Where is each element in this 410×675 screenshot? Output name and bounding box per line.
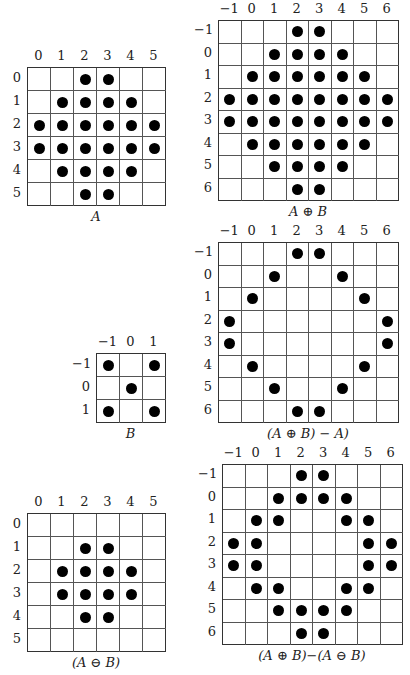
grid-cell: [358, 510, 381, 533]
grid-cell: [219, 401, 242, 424]
pixel-dot: [80, 189, 91, 200]
column-label: 4: [119, 494, 142, 509]
pixel-dot: [314, 184, 325, 195]
grid-cell: [120, 68, 143, 91]
pixel-dot: [292, 71, 303, 82]
grid-cell: [354, 179, 377, 202]
pixel-dot: [363, 583, 374, 594]
pixel-dot: [251, 538, 262, 549]
row-label: 1: [72, 402, 90, 417]
grid-cell: [332, 311, 355, 334]
pixel-dot: [337, 49, 348, 60]
pixel-dot: [314, 248, 325, 259]
grid-cell: [268, 510, 291, 533]
grid-cell: [381, 510, 404, 533]
figure-caption: A ⊕ B: [218, 204, 398, 219]
grid-cell: [97, 68, 120, 91]
pixel-dot: [149, 360, 160, 371]
grid-cell: [264, 266, 287, 289]
grid-cell: [97, 160, 120, 183]
pixel-dot: [269, 271, 280, 282]
grid-cell: [332, 134, 355, 157]
grid-cell: [143, 160, 166, 183]
grid-cell: [313, 488, 336, 511]
grid-cell: [354, 333, 377, 356]
pixel-dot: [341, 493, 352, 504]
pixel-dot: [80, 120, 91, 131]
grid-cell: [246, 488, 269, 511]
pixel-dot: [337, 271, 348, 282]
grid-cell: [354, 111, 377, 134]
grid-cell: [264, 21, 287, 44]
pixel-dot: [57, 166, 68, 177]
grid-cell: [377, 66, 400, 89]
grid-cell: [120, 629, 143, 652]
pixel-dot: [103, 406, 114, 417]
grid-cell: [291, 578, 314, 601]
grid-cell: [309, 266, 332, 289]
pixel-dot: [34, 120, 45, 131]
pixel-dot: [224, 338, 235, 349]
row-label: 2: [194, 312, 212, 327]
grid-cell: [28, 183, 51, 206]
grid-cell: [264, 333, 287, 356]
grid-cell: [97, 114, 120, 137]
row-label: 0: [3, 516, 21, 531]
grid-cell: [28, 583, 51, 606]
pixel-dot: [80, 143, 91, 154]
pixel-dot: [80, 74, 91, 85]
column-label: −1: [222, 445, 245, 460]
grid-cell: [377, 333, 400, 356]
pixel-dot: [363, 515, 374, 526]
pixel-dot: [247, 116, 258, 127]
grid-cell: [377, 243, 400, 266]
column-label: 6: [379, 445, 402, 460]
grid-cell: [354, 89, 377, 112]
grid-cell: [51, 629, 74, 652]
pixel-dot: [269, 116, 280, 127]
pixel-dot: [224, 116, 235, 127]
row-label: −1: [194, 244, 212, 259]
grid-cell: [28, 606, 51, 629]
grid-cell: [381, 623, 404, 646]
column-label: 6: [375, 1, 398, 16]
pixel-dot: [149, 406, 160, 417]
grid-cell: [242, 356, 265, 379]
grid-cell: [242, 288, 265, 311]
grid-cell: [223, 533, 246, 556]
grid-cell: [120, 537, 143, 560]
grid-cell: [287, 356, 310, 379]
row-label: 0: [72, 379, 90, 394]
grid-cell: [97, 377, 120, 400]
grid-cell: [358, 488, 381, 511]
grid-cell: [97, 91, 120, 114]
pixel-dot: [337, 71, 348, 82]
pixel-dot: [103, 566, 114, 577]
grid-cell: [313, 555, 336, 578]
row-label: 6: [194, 180, 212, 195]
row-label: 2: [3, 562, 21, 577]
pixel-dot: [103, 360, 114, 371]
grid-cell: [219, 333, 242, 356]
grid-cell: [268, 465, 291, 488]
grid-cell: [287, 21, 310, 44]
pixel-dot: [359, 94, 370, 105]
grid-cell: [242, 378, 265, 401]
pixel-dot: [103, 189, 114, 200]
grid-cell: [51, 560, 74, 583]
pixel-dot: [296, 605, 307, 616]
pixel-dot: [269, 161, 280, 172]
grid-cell: [223, 623, 246, 646]
column-label: 3: [312, 445, 335, 460]
grid-cell: [287, 134, 310, 157]
pixel-dot: [57, 120, 68, 131]
grid-cell: [74, 183, 97, 206]
column-label: 4: [330, 1, 353, 16]
grid-cell: [97, 606, 120, 629]
pixel-dot: [149, 143, 160, 154]
row-label: 4: [3, 608, 21, 623]
pixel-dot: [103, 143, 114, 154]
grid-cell: [264, 66, 287, 89]
grid-cell: [358, 555, 381, 578]
grid-cell: [74, 91, 97, 114]
